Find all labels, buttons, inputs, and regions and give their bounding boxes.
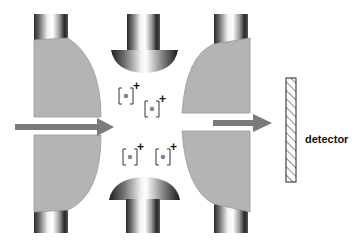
ion: + bbox=[119, 79, 140, 104]
electrode-left-lower bbox=[34, 135, 101, 212]
end-cap-top bbox=[111, 14, 178, 73]
end-cap-top-rod bbox=[127, 14, 160, 52]
ion-dot bbox=[161, 155, 166, 160]
ion-trap-diagram: ++++ detector bbox=[0, 0, 360, 243]
end-cap-bottom-rod bbox=[126, 199, 160, 233]
outgoing-beam-arrow bbox=[213, 114, 272, 132]
electrode-right-upper bbox=[182, 38, 250, 113]
detector: detector bbox=[286, 78, 349, 182]
ion-charge: + bbox=[159, 92, 166, 106]
ion-dot bbox=[150, 107, 155, 112]
ion: + bbox=[156, 140, 177, 165]
electrode-left-upper bbox=[34, 38, 101, 117]
end-cap-top-dome bbox=[111, 50, 178, 73]
ion-charge: + bbox=[137, 140, 144, 154]
detector-plate bbox=[286, 78, 296, 182]
ion: + bbox=[123, 140, 144, 165]
ion-dot bbox=[124, 94, 129, 99]
detector-label: detector bbox=[305, 133, 349, 145]
ion-charge: + bbox=[170, 140, 177, 154]
end-cap-bottom-dome bbox=[109, 177, 180, 200]
ions: ++++ bbox=[119, 79, 177, 165]
end-cap-bottom bbox=[109, 177, 180, 233]
ring-electrode-left bbox=[34, 14, 101, 233]
ion-charge: + bbox=[133, 79, 140, 93]
electrode-right-lower bbox=[182, 131, 250, 212]
ion-dot bbox=[128, 155, 133, 160]
ion: + bbox=[145, 92, 166, 117]
incoming-beam-arrow bbox=[15, 118, 114, 136]
